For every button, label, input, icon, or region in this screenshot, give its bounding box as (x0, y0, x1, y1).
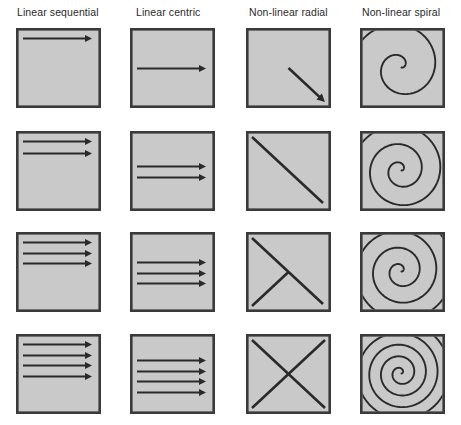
panel-linear_centric-stage-4 (130, 334, 215, 414)
panel-linear_sequential-stage-4 (16, 334, 101, 414)
panel-nonlinear_spiral-stage-4 (360, 334, 445, 414)
panel-nonlinear_spiral-stage-1 (360, 28, 445, 108)
scanning-patterns-figure: Linear sequential Linear centric Non-lin… (0, 0, 461, 425)
column-header-non-linear-radial: Non-linear radial (249, 6, 328, 18)
panel-nonlinear_radial-stage-2 (246, 131, 331, 211)
column-header-non-linear-spiral: Non-linear spiral (362, 6, 440, 18)
panel-nonlinear_radial-stage-3 (246, 232, 331, 312)
column-header-linear-centric: Linear centric (136, 6, 200, 18)
column-header-linear-sequential: Linear sequential (17, 6, 99, 18)
panel-nonlinear_radial-stage-4 (246, 334, 331, 414)
panel-linear_sequential-stage-1 (16, 28, 101, 108)
panel-linear_centric-stage-3 (130, 232, 215, 312)
panel-linear_centric-stage-2 (130, 131, 215, 211)
panel-nonlinear_spiral-stage-2 (360, 131, 445, 211)
panel-nonlinear_radial-stage-1 (246, 28, 331, 108)
panel-linear_centric-stage-1 (130, 28, 215, 108)
panel-linear_sequential-stage-2 (16, 131, 101, 211)
panel-linear_sequential-stage-3 (16, 232, 101, 312)
panel-nonlinear_spiral-stage-3 (360, 232, 445, 312)
